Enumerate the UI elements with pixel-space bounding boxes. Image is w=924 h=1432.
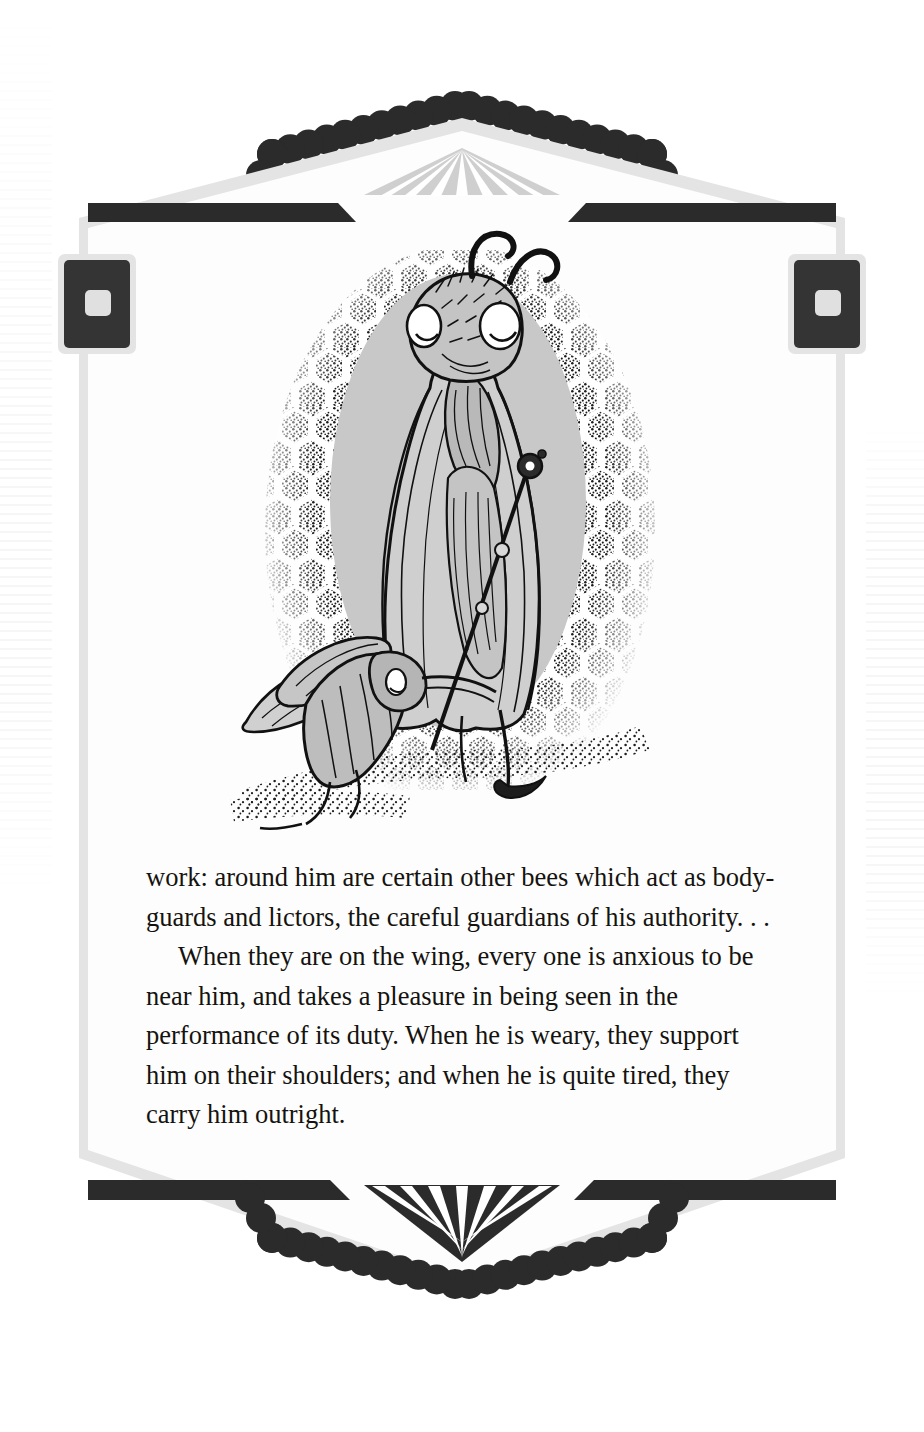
bottom-right-rail — [574, 1180, 836, 1200]
queen-eye-right — [480, 303, 520, 349]
top-right-rail — [568, 203, 836, 222]
paragraph-1: When they are on the wing, every one is … — [146, 937, 786, 1135]
paragraph-0: work: around him are certain other bees … — [146, 858, 786, 937]
body-text: work: around him are certain other bees … — [146, 858, 786, 1135]
queen-bee-and-attendant — [210, 230, 710, 845]
illustration-artwork — [210, 230, 710, 845]
book-page: work: around him are certain other bees … — [0, 0, 924, 1432]
bottom-left-rail — [88, 1180, 350, 1200]
top-left-rail — [88, 203, 356, 222]
corner-block-top-left — [58, 254, 136, 354]
corner-block-top-right — [788, 254, 866, 354]
